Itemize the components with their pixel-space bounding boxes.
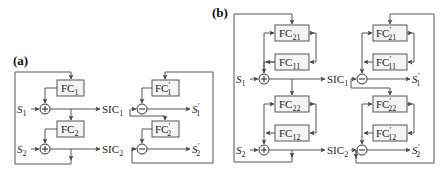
svg-text:S′2: S′2 bbox=[412, 143, 420, 159]
svg-text:S1: S1 bbox=[236, 73, 246, 88]
svg-text:S2: S2 bbox=[236, 144, 246, 159]
a-s2-prime-label: S′2 bbox=[192, 142, 200, 158]
panel-a: (a) FC1 S1 SIC1 FC2 S2 SIC2 bbox=[13, 53, 213, 164]
diagram-svg: (a) FC1 S1 SIC1 FC2 S2 SIC2 bbox=[0, 0, 448, 175]
svg-text:SIC2: SIC2 bbox=[327, 144, 348, 159]
diagram-canvas: (a) FC1 S1 SIC1 FC2 S2 SIC2 bbox=[0, 0, 448, 175]
a-sic2-label: SIC2 bbox=[102, 143, 123, 158]
panel-b: (b) FC21 FC11 S1 SIC1 FC22 FC12 bbox=[212, 5, 434, 163]
a-s1-prime-label: S′1 bbox=[192, 102, 200, 118]
panel-b-label: (b) bbox=[212, 5, 228, 20]
a-s1-label: S1 bbox=[17, 103, 27, 118]
svg-text:SIC1: SIC1 bbox=[327, 73, 348, 88]
a-fc1-to-adder1 bbox=[45, 88, 57, 103]
a-sic1-label: SIC1 bbox=[102, 103, 123, 118]
a-s2-label: S2 bbox=[17, 143, 27, 158]
svg-text:S′1: S′1 bbox=[412, 72, 420, 88]
panel-a-label: (a) bbox=[13, 53, 28, 68]
